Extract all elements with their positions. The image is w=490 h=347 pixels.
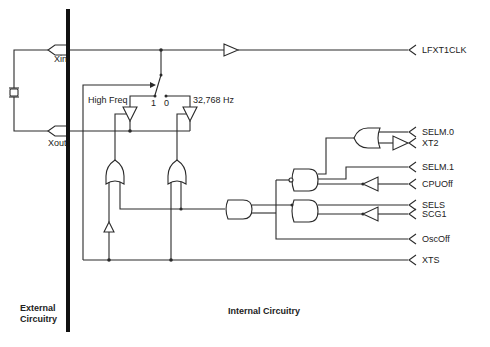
signal-lfxt1clk: LFXT1CLK <box>422 46 467 55</box>
crystal <box>9 50 48 131</box>
switch-pos-1: 1 <box>151 99 156 108</box>
freq-switch <box>130 50 190 107</box>
lfxt1clk-connector <box>409 45 416 55</box>
high-freq-label: High Freq <box>88 96 128 105</box>
signal-scg1: SCG1 <box>422 210 447 219</box>
low-freq-label: 32,768 Hz <box>193 96 234 105</box>
xin-label: Xin <box>54 55 67 64</box>
inverter-left <box>104 222 114 232</box>
and-gate-middle <box>226 200 252 219</box>
external-circuitry-label: External Circuitry <box>20 303 60 326</box>
switch-pos-0: 0 <box>164 99 169 108</box>
signal-oscoff: OscOff <box>422 235 450 244</box>
lfxt1clk-buffer <box>224 44 238 56</box>
xout-label: Xout <box>48 139 67 148</box>
cpuoff-inverter <box>363 177 378 191</box>
signal-xt2: XT2 <box>422 139 439 148</box>
internal-circuitry-label: Internal Circuitry <box>228 306 300 317</box>
signal-selm1: SELM.1 <box>422 163 454 172</box>
nand-gate-upper <box>292 169 318 191</box>
xt2-inverter <box>393 136 408 150</box>
signal-cpuoff: CPUOff <box>422 180 453 189</box>
or-gate-top-right <box>354 128 380 148</box>
circuit-diagram <box>0 0 490 347</box>
scg1-inverter <box>363 207 378 221</box>
and-gate-lower <box>292 200 318 222</box>
xout-pin <box>48 126 66 136</box>
signal-selm0: SELM.0 <box>422 128 454 137</box>
signal-xts: XTS <box>422 256 440 265</box>
or-gate-left <box>106 160 124 184</box>
or-gate-right <box>168 160 186 184</box>
